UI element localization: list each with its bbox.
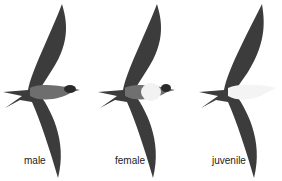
female-bird-illustration [95,0,190,181]
juvenile-bird-illustration [190,0,282,181]
label-juvenile: juvenile [212,155,246,166]
bird-juvenile: juvenile [190,0,282,181]
bird-female: female [95,0,190,181]
male-bird-illustration [0,0,95,181]
label-female: female [115,155,145,166]
bird-male: male [0,0,95,181]
label-male: male [24,155,46,166]
